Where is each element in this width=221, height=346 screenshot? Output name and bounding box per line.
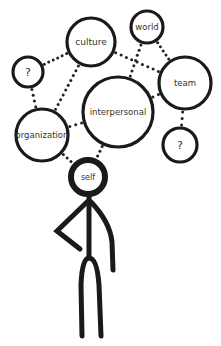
connection-dot xyxy=(157,93,160,96)
node-team: team xyxy=(159,57,211,109)
connection-dot xyxy=(96,155,99,158)
node-question-top-left: ? xyxy=(13,57,43,87)
connection-dot xyxy=(54,108,57,111)
connection-dot xyxy=(162,49,165,52)
connection-dot xyxy=(132,64,135,67)
connection-dot xyxy=(32,94,35,97)
connection-dot xyxy=(181,110,184,113)
connection-dot xyxy=(47,61,50,64)
connection-dot xyxy=(74,69,77,72)
connection-dot xyxy=(57,103,60,106)
connection-dot xyxy=(139,44,142,47)
connection-dot xyxy=(131,69,134,72)
connection-dot xyxy=(98,150,101,153)
connection-culture-question-top-left xyxy=(43,52,68,66)
node-label: organization xyxy=(16,130,69,140)
connection-dot xyxy=(138,49,141,52)
node-label: ? xyxy=(177,139,183,152)
connection-dot xyxy=(61,54,64,57)
node-label: culture xyxy=(75,37,107,47)
connection-dot xyxy=(34,105,37,108)
diagram-svg: cultureworld?teaminterpersonalorganizati… xyxy=(0,0,221,346)
concept-nodes: cultureworld?teaminterpersonalorganizati… xyxy=(13,11,211,162)
connection-dot xyxy=(56,56,59,59)
node-label: team xyxy=(174,78,196,88)
connection-dot xyxy=(125,56,128,59)
connection-dot xyxy=(62,93,65,96)
stick-figure-thought-diagram: cultureworld?teaminterpersonalorganizati… xyxy=(0,0,221,346)
connection-dot xyxy=(130,58,133,61)
connection-culture-organization xyxy=(54,64,80,110)
connection-dot xyxy=(77,64,80,67)
node-world: world xyxy=(131,11,163,43)
connection-dot xyxy=(80,122,83,125)
connection-dot xyxy=(43,63,46,66)
connection-dot xyxy=(33,100,36,103)
node-label: world xyxy=(135,22,158,32)
connection-world-team xyxy=(156,41,170,60)
connection-dot xyxy=(30,88,33,91)
connection-dot xyxy=(74,123,77,126)
connection-dot xyxy=(72,74,75,77)
connection-dot xyxy=(64,89,67,92)
connection-dot xyxy=(181,117,184,120)
connection-dot xyxy=(52,59,55,62)
connection-dot xyxy=(129,75,132,78)
connection-dot xyxy=(70,160,73,163)
node-label: ? xyxy=(25,66,31,79)
connection-dot xyxy=(136,54,139,57)
connection-question-top-left-organization xyxy=(30,88,37,108)
connection-dot xyxy=(151,95,154,98)
connection-dot xyxy=(180,124,183,127)
self-label: self xyxy=(81,173,95,182)
node-organization: organization xyxy=(16,109,69,161)
self-head-node: self xyxy=(71,160,105,194)
connection-dot xyxy=(66,157,69,160)
connection-dot xyxy=(67,84,70,87)
connection-dot xyxy=(59,98,62,101)
connection-dot xyxy=(65,52,68,55)
connection-dot xyxy=(120,54,123,57)
connection-dot xyxy=(141,63,144,66)
connection-organization-self xyxy=(62,153,73,163)
connection-organization-interpersonal xyxy=(68,122,83,129)
connection-dot xyxy=(134,59,137,62)
connection-dot xyxy=(152,68,155,71)
node-culture: culture xyxy=(67,18,115,66)
connection-dot xyxy=(165,53,168,56)
connection-interpersonal-team xyxy=(151,93,160,98)
connection-dot xyxy=(146,65,149,68)
connection-dot xyxy=(157,70,160,73)
node-label: interpersonal xyxy=(90,107,147,117)
connection-team-question-bottom-right xyxy=(180,110,184,126)
stick-figure-left-arm xyxy=(57,202,87,249)
connection-dot xyxy=(69,79,72,82)
node-question-bottom-right: ? xyxy=(163,128,197,162)
connection-interpersonal-self xyxy=(96,145,104,158)
connection-dot xyxy=(68,125,71,128)
node-interpersonal: interpersonal xyxy=(83,77,153,147)
connection-dot xyxy=(159,45,162,48)
stick-figure-legs xyxy=(81,258,101,336)
stick-figure xyxy=(57,196,113,336)
